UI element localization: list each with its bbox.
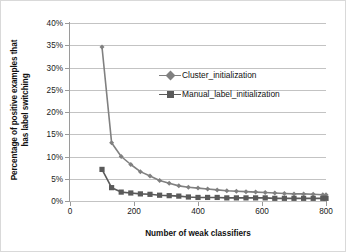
diamond-marker-icon [167, 181, 172, 186]
diamond-marker-icon [100, 45, 105, 50]
y-tick-label: 20% [37, 108, 63, 117]
diamond-marker-icon [292, 191, 297, 196]
y-tick-label: 30% [37, 63, 63, 72]
square-marker-icon [215, 195, 220, 200]
square-marker-icon [301, 196, 306, 201]
y-tick-label: 35% [37, 41, 63, 50]
square-marker-icon [243, 195, 248, 200]
diamond-marker-icon [272, 190, 277, 195]
square-marker-icon [205, 195, 210, 200]
square-marker-icon [176, 194, 181, 199]
y-tick-label: 0% [37, 197, 63, 206]
square-marker-icon [195, 195, 200, 200]
square-marker-icon [311, 196, 316, 201]
x-tick-mark [262, 202, 263, 206]
x-tick-label: 600 [245, 207, 279, 216]
square-marker-icon [147, 192, 152, 197]
x-tick-label: 200 [117, 207, 151, 216]
diamond-marker-icon [186, 185, 191, 190]
square-marker-icon [224, 195, 229, 200]
diamond-marker-icon [224, 188, 229, 193]
legend-label: Manual_label_initialization [182, 89, 280, 99]
square-marker-icon [99, 167, 104, 172]
line-chart: Percentage of positive examples that has… [0, 0, 346, 252]
x-tick-label: 400 [181, 207, 215, 216]
diamond-marker-icon [301, 191, 306, 196]
diamond-marker-icon [148, 174, 153, 179]
legend-item-cluster-initialization[interactable]: Cluster_initialization [159, 69, 280, 81]
square-marker-icon [157, 193, 162, 198]
y-tick-label: 25% [37, 85, 63, 94]
legend-swatch-diamond-icon [159, 70, 181, 80]
y-tick-label: 15% [37, 130, 63, 139]
gridline [70, 201, 326, 202]
x-axis-title: Number of weak classifiers [69, 229, 327, 238]
legend: Cluster_initialization Manual_label_init… [159, 69, 280, 100]
diamond-marker-icon [165, 70, 175, 80]
x-tick-mark [326, 202, 327, 206]
diamond-marker-icon [253, 190, 258, 195]
diamond-marker-icon [282, 191, 287, 196]
diamond-marker-icon [263, 190, 268, 195]
square-marker-icon [291, 196, 296, 201]
x-tick-mark [198, 202, 199, 206]
diamond-marker-icon [196, 186, 201, 191]
square-marker-icon [186, 194, 191, 199]
y-tick-label: 5% [37, 174, 63, 183]
square-marker-icon [128, 190, 133, 195]
diamond-marker-icon [157, 178, 162, 183]
diamond-marker-icon [215, 187, 220, 192]
square-marker-icon [263, 195, 268, 200]
x-tick-mark [134, 202, 135, 206]
y-axis-title: Percentage of positive examples that has… [3, 7, 37, 213]
square-marker-icon [282, 196, 287, 201]
y-axis-title-text: Percentage of positive examples that has… [9, 40, 31, 181]
square-marker-icon [234, 195, 239, 200]
y-axis-title-line-2: has label switching [21, 73, 30, 146]
square-marker-icon [253, 195, 258, 200]
x-tick-label: 0 [53, 207, 87, 216]
square-marker-icon [167, 193, 172, 198]
y-tick-label: 10% [37, 152, 63, 161]
square-marker-icon [109, 185, 114, 190]
square-marker-icon [272, 196, 277, 201]
square-marker-icon [138, 191, 143, 196]
plot-area [70, 23, 326, 201]
legend-label: Cluster_initialization [182, 70, 256, 80]
x-tick-label: 800 [309, 207, 343, 216]
series-layer [70, 23, 326, 201]
legend-swatch-square-icon [159, 89, 181, 99]
diamond-marker-icon [234, 189, 239, 194]
diamond-marker-icon [244, 189, 249, 194]
diamond-marker-icon [205, 186, 210, 191]
diamond-marker-icon [176, 183, 181, 188]
y-tick-label: 40% [37, 19, 63, 28]
legend-item-manual-label-initialization[interactable]: Manual_label_initialization [159, 88, 280, 100]
y-axis-title-line-1: Percentage of positive examples that [10, 40, 19, 181]
square-marker-icon [167, 91, 174, 98]
square-marker-icon [119, 190, 124, 195]
square-marker-icon [323, 196, 328, 201]
x-tick-mark [70, 202, 71, 206]
